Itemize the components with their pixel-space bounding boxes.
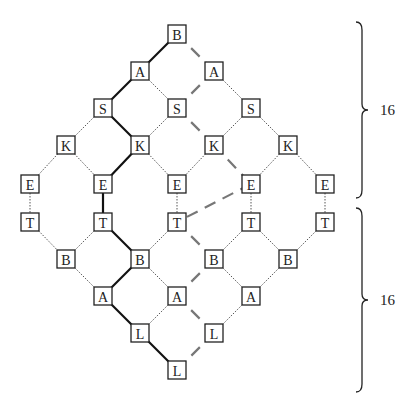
lattice-node: B: [205, 250, 223, 268]
edge-dashed: [177, 184, 251, 222]
lattice-node: S: [242, 99, 260, 117]
lattice-node: B: [131, 250, 149, 268]
lattice-node: T: [242, 213, 260, 231]
node-letter: K: [61, 139, 71, 154]
node-letter: B: [135, 253, 144, 268]
node-letter: S: [173, 102, 181, 117]
node-letter: B: [283, 253, 292, 268]
node-letter: E: [173, 178, 182, 193]
node-letter: A: [172, 290, 183, 305]
node-letter: L: [173, 364, 182, 379]
node-letter: K: [135, 139, 145, 154]
node-letter: K: [209, 139, 219, 154]
node-letter: L: [136, 327, 145, 342]
lattice-node: B: [279, 250, 297, 268]
lattice-node: K: [131, 136, 149, 154]
lattice-node: S: [94, 99, 112, 117]
node-letter: K: [283, 139, 293, 154]
node-letter: B: [61, 253, 70, 268]
curly-brace: [356, 22, 368, 198]
lattice-node: T: [21, 213, 39, 231]
lattice-node: A: [94, 287, 112, 305]
lattice-node: K: [57, 136, 75, 154]
node-letter: S: [247, 102, 255, 117]
lattice-node: A: [131, 62, 149, 80]
lattice-node: K: [279, 136, 297, 154]
lattice-node: B: [168, 25, 186, 43]
lattice-node: A: [205, 62, 223, 80]
lattice-node: E: [21, 175, 39, 193]
brace-count-label: 16: [380, 102, 396, 118]
node-letter: A: [209, 65, 220, 80]
node-letter: A: [135, 65, 146, 80]
node-letter: A: [98, 290, 109, 305]
lattice-node: E: [168, 175, 186, 193]
row-count-braces: 1616: [356, 22, 396, 392]
node-letter: B: [172, 28, 181, 43]
brace-count-label: 16: [380, 292, 396, 308]
node-letter: E: [321, 178, 330, 193]
lattice-node: T: [316, 213, 334, 231]
lattice-node: T: [168, 213, 186, 231]
node-letter: T: [26, 216, 35, 231]
node-letter: T: [321, 216, 330, 231]
word-lattice-diagram: BAASSSKKKKEEEEETTTTTBBBBAAALLL 1616: [0, 0, 417, 404]
node-letter: S: [99, 102, 107, 117]
lattice-node: A: [242, 287, 260, 305]
node-letter: E: [99, 178, 108, 193]
node-letter: E: [26, 178, 35, 193]
lattice-node: T: [94, 213, 112, 231]
lattice-node: A: [168, 287, 186, 305]
lattice-node: E: [242, 175, 260, 193]
lattice-edges: [30, 34, 325, 370]
lattice-node: E: [94, 175, 112, 193]
node-letter: E: [247, 178, 256, 193]
node-letter: T: [99, 216, 108, 231]
lattice-nodes: BAASSSKKKKEEEEETTTTTBBBBAAALLL: [21, 25, 334, 379]
lattice-node: L: [131, 324, 149, 342]
lattice-node: L: [205, 324, 223, 342]
lattice-node: B: [57, 250, 75, 268]
node-letter: L: [210, 327, 219, 342]
node-letter: A: [246, 290, 257, 305]
node-letter: T: [247, 216, 256, 231]
node-letter: B: [209, 253, 218, 268]
node-letter: T: [173, 216, 182, 231]
curly-brace: [356, 208, 368, 392]
lattice-node: L: [168, 361, 186, 379]
lattice-node: E: [316, 175, 334, 193]
lattice-node: K: [205, 136, 223, 154]
lattice-node: S: [168, 99, 186, 117]
